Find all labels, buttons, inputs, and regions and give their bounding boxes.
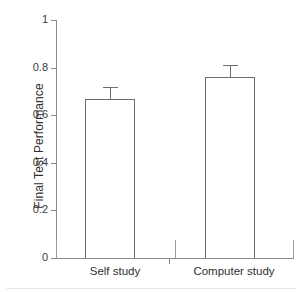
bar-self-study	[85, 99, 135, 258]
y-tick-mark-04	[51, 163, 56, 164]
y-tick-label-0: 0	[0, 252, 48, 263]
error-bar-stem-computer-study	[230, 65, 231, 77]
error-bar-stem-self-study	[110, 87, 111, 99]
y-tick-mark-1	[51, 20, 56, 21]
bar-computer-study	[205, 77, 255, 258]
y-tick-label-1: 1	[0, 14, 48, 25]
error-bar-cap-self-study	[103, 87, 118, 88]
y-tick-mark-06	[51, 115, 56, 116]
y-axis-line	[56, 20, 57, 259]
error-bar-cap-computer-study	[223, 65, 238, 66]
x-tick-label-self-study: Self study	[55, 265, 175, 278]
y-tick-mark-0	[51, 258, 56, 259]
y-tick-label-06: 0.6	[0, 109, 48, 120]
y-tick-label-02: 0.2	[0, 204, 48, 215]
y-tick-mark-08	[51, 68, 56, 69]
y-tick-label-04: 0.4	[0, 157, 48, 168]
bar-chart-figure: Final Test Performance 1 0.8 0.6 0.4 0.2…	[0, 0, 302, 292]
y-tick-label-08: 0.8	[0, 62, 48, 73]
x-tick-boundary-mid-b	[175, 240, 176, 258]
scan-artifact-line	[6, 288, 296, 289]
x-tick-boundary-right	[293, 240, 294, 258]
x-axis-line	[56, 258, 294, 259]
x-tick-boundary-left	[56, 240, 57, 258]
x-tick-center	[169, 259, 170, 264]
y-tick-mark-02	[51, 210, 56, 211]
x-tick-label-computer-study: Computer study	[174, 265, 294, 278]
